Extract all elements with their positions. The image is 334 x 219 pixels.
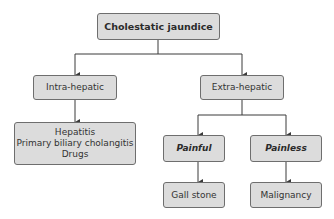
node-label: Malignancy xyxy=(260,190,311,201)
node-extra-hepatic: Extra-hepatic xyxy=(200,75,284,100)
node-label: Painless xyxy=(265,143,307,154)
node-intra-hepatic: Intra-hepatic xyxy=(33,75,117,100)
node-label: Gall stone xyxy=(171,190,216,201)
node-painful: Painful xyxy=(163,135,225,162)
node-painless: Painless xyxy=(250,135,322,162)
node-label: Cholestatic jaundice xyxy=(104,21,213,32)
cause-primary-biliary-cholangitis: Primary biliary cholangitis xyxy=(16,138,133,149)
node-cholestatic-jaundice: Cholestatic jaundice xyxy=(97,13,220,40)
cause-drugs: Drugs xyxy=(62,149,89,160)
node-malignancy: Malignancy xyxy=(250,182,322,208)
node-label: Intra-hepatic xyxy=(46,82,104,93)
node-gall-stone: Gall stone xyxy=(163,182,225,208)
node-label: Extra-hepatic xyxy=(212,82,272,93)
cause-hepatitis: Hepatitis xyxy=(55,127,95,138)
node-intra-hepatic-causes: Hepatitis Primary biliary cholangitis Dr… xyxy=(14,122,136,165)
node-label: Painful xyxy=(177,143,212,154)
